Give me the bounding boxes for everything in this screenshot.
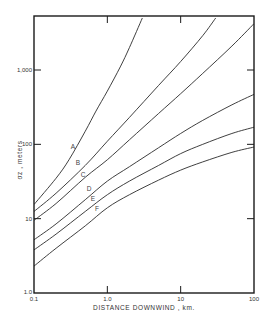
curve-d <box>34 94 254 239</box>
x-axis-tick-labels: 0.11.010100 <box>30 296 260 302</box>
curve-label-d: D <box>87 185 92 192</box>
x-tick-label: 100 <box>249 296 260 302</box>
x-axis-title: DISTANCE DOWNWIND , km. <box>93 304 195 311</box>
curve-label-a: A <box>71 143 76 150</box>
curves <box>34 18 254 266</box>
curve-label-c: C <box>81 171 86 178</box>
x-tick-label: 10 <box>177 296 184 302</box>
curve-e <box>34 127 254 250</box>
y-axis-title: σz , meters <box>16 140 23 179</box>
axis-ticks <box>34 16 254 293</box>
plot-frame <box>34 16 254 293</box>
y-tick-label: 100 <box>22 141 33 147</box>
x-tick-label: 0.1 <box>30 296 39 302</box>
x-tick-label: 1.0 <box>103 296 112 302</box>
y-tick-label: 10 <box>25 216 32 222</box>
curve-label-b: B <box>76 159 80 166</box>
curve-label-f: F <box>95 205 99 212</box>
curve-label-e: E <box>91 195 96 202</box>
curve-f <box>34 147 254 266</box>
curve-labels: ABCDEF <box>71 143 99 212</box>
sigma-z-chart: ABCDEF 0.11.010100 1.0101001,000 DISTANC… <box>0 0 270 321</box>
curve-c <box>34 24 254 221</box>
curve-a <box>34 18 142 204</box>
curve-b <box>34 18 216 211</box>
y-tick-label: 1,000 <box>17 67 33 73</box>
y-tick-label: 1.0 <box>24 289 33 295</box>
y-axis-tick-labels: 1.0101001,000 <box>17 67 33 295</box>
